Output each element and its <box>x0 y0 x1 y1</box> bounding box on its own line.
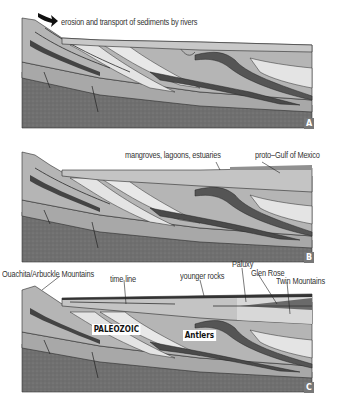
label-proto-gulf: proto–Gulf of Mexico <box>255 150 320 160</box>
label-paluxy: Paluxy <box>232 259 253 269</box>
label-mangroves: mangroves, lagoons, estuaries <box>125 150 221 160</box>
panel-b: mangroves, lagoons, estuaries proto–Gulf… <box>0 140 341 265</box>
label-twin-mountains: Twin Mountains <box>276 276 325 286</box>
label-time-line: time line <box>110 274 136 284</box>
label-younger-rocks: younger rocks <box>180 271 224 281</box>
panel-letter-c: C <box>304 382 314 393</box>
panel-c: Ouachita/Arbuckle Mountains time line yo… <box>0 262 341 398</box>
label-paleozoic: PALEOZOIC <box>92 324 141 335</box>
panel-a: erosion and transport of sediments by ri… <box>0 0 341 130</box>
panel-letter-a: A <box>304 118 314 129</box>
label-antlers: Antlers <box>183 330 216 341</box>
label-ouachita-arbuckle: Ouachita/Arbuckle Mountains <box>2 269 94 279</box>
label-erosion: erosion and transport of sediments by ri… <box>61 17 197 27</box>
